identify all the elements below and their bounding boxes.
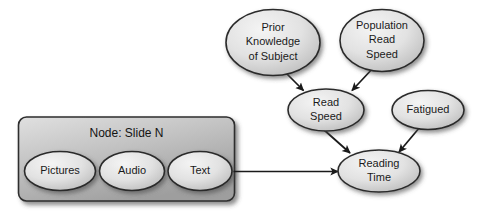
node-prior-knowledge-line-3: of Subject (249, 50, 298, 62)
node-read-speed[interactable]: Read Speed (288, 89, 364, 131)
node-read-speed-line-1: Read (313, 96, 339, 108)
edge-fatigued-to-reading-time (399, 127, 420, 152)
node-reading-time-line-1: Reading (359, 157, 400, 169)
node-population-read-speed-line-3: Speed (366, 48, 398, 60)
node-audio[interactable]: Audio (100, 152, 165, 191)
node-reading-time[interactable]: Reading Time (338, 150, 420, 192)
edge-read-speed-to-reading-time (323, 129, 350, 153)
node-prior-knowledge-line-1: Prior (261, 21, 285, 33)
node-reading-time-line-2: Time (367, 171, 391, 183)
diagram-canvas: Node: Slide N Pictures Audio Text (0, 0, 489, 220)
node-audio-label: Audio (118, 164, 146, 176)
node-text-label: Text (190, 164, 210, 176)
node-read-speed-line-2: Speed (310, 110, 342, 122)
node-text[interactable]: Text (168, 152, 232, 191)
node-prior-knowledge-of-subject[interactable]: Prior Knowledge of Subject (226, 10, 320, 76)
node-population-read-speed-line-1: Population (356, 19, 408, 31)
node-population-read-speed-line-2: Read (369, 33, 395, 45)
node-pictures[interactable]: Pictures (25, 152, 96, 191)
node-prior-knowledge-line-2: Knowledge (246, 35, 300, 47)
node-fatigued[interactable]: Fatigued (392, 91, 464, 130)
node-pictures-label: Pictures (40, 164, 80, 176)
node-population-read-speed[interactable]: Population Read Speed (340, 10, 424, 72)
node-fatigued-label: Fatigued (407, 103, 450, 115)
container-title: Node: Slide N (89, 126, 163, 140)
diagram-svg: Node: Slide N Pictures Audio Text (0, 0, 489, 220)
container-node-slide-n[interactable]: Node: Slide N Pictures Audio Text (19, 117, 235, 201)
